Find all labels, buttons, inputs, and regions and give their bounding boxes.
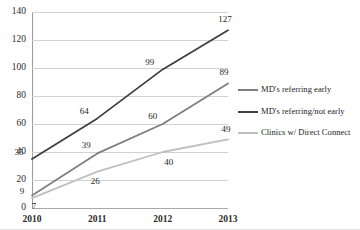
- series-line: [32, 139, 228, 198]
- legend-item[interactable]: MD's referring/not early: [238, 106, 358, 117]
- y-axis-tick-label: 60: [0, 119, 26, 129]
- y-axis-tick-label: 40: [0, 147, 26, 157]
- legend-swatch-icon: [238, 132, 258, 134]
- legend-item[interactable]: Clinics w/ Direct Connect: [238, 127, 358, 138]
- y-axis-tick-label: 120: [0, 35, 26, 45]
- data-point-label: 26: [91, 176, 100, 185]
- legend-item[interactable]: MD's referring early: [238, 84, 358, 95]
- data-point-label: 127: [218, 15, 232, 24]
- legend-label: MD's referring/not early: [261, 106, 345, 117]
- y-axis-tick-label: 140: [0, 7, 26, 17]
- series-line: [32, 83, 228, 195]
- legend-swatch-icon: [238, 89, 258, 91]
- data-point-label: 39: [82, 141, 91, 150]
- data-point-label: 7: [32, 202, 37, 211]
- legend-label: MD's referring early: [261, 84, 331, 95]
- data-point-label: 89: [220, 68, 229, 77]
- legend-swatch-icon: [238, 111, 258, 113]
- legend: MD's referring earlyMD's referring/not e…: [238, 84, 358, 149]
- x-axis-tick-label: 2010: [2, 215, 62, 225]
- y-axis-tick-label: 0: [0, 203, 26, 213]
- data-point-label: 99: [145, 58, 154, 67]
- x-axis-tick-label: 2013: [198, 215, 258, 225]
- data-point-label: 49: [222, 125, 231, 134]
- data-point-label: 60: [148, 112, 157, 121]
- y-axis-tick-label: 80: [0, 91, 26, 101]
- gridline: [32, 208, 228, 209]
- y-axis-tick-label: 20: [0, 175, 26, 185]
- data-point-label: 9: [20, 187, 25, 196]
- data-point-label: 40: [164, 158, 173, 167]
- line-chart: 93960893564991277264049 1401201008060402…: [0, 0, 360, 230]
- legend-label: Clinics w/ Direct Connect: [261, 127, 351, 138]
- y-axis-tick-label: 100: [0, 63, 26, 73]
- series-layer: [32, 12, 228, 208]
- data-point-label: 64: [80, 107, 89, 116]
- plot-area: 93960893564991277264049: [32, 12, 228, 208]
- x-axis-tick-label: 2011: [67, 215, 127, 225]
- x-axis-tick-label: 2012: [133, 215, 193, 225]
